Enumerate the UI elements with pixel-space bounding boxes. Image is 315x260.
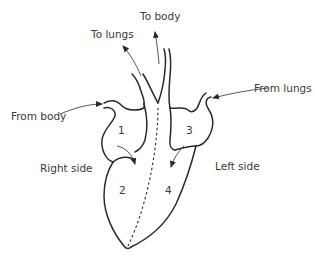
- heart-diagram: To body To lungs From body From lungs Ri…: [0, 0, 315, 260]
- chamber-1-label: 1: [118, 124, 125, 136]
- label-from-body: From body: [11, 110, 66, 122]
- label-from-lungs: From lungs: [254, 82, 312, 94]
- heart-outline: [0, 0, 315, 260]
- septum: [128, 108, 158, 246]
- chamber-3-label: 3: [186, 124, 193, 136]
- chamber-2-label: 2: [119, 184, 126, 196]
- right-av-arrow: [117, 146, 135, 164]
- label-to-lungs: To lungs: [91, 28, 134, 40]
- to-lungs-arrow: [123, 46, 141, 76]
- label-left-side: Left side: [215, 160, 260, 172]
- chamber-4-label: 4: [165, 184, 172, 196]
- label-right-side: Right side: [40, 162, 93, 174]
- to-body-arrow: [155, 32, 159, 64]
- label-to-body: To body: [140, 10, 180, 22]
